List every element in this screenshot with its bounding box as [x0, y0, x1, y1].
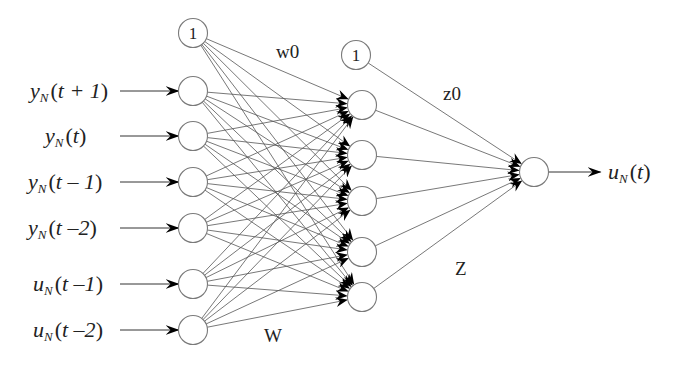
weight-edge: [374, 181, 522, 288]
weight-label-z0: z0: [443, 83, 461, 104]
weight-edge: [207, 108, 346, 134]
output-node: [520, 158, 549, 187]
output-label: uN(t): [608, 159, 650, 186]
bias-label: 1: [352, 46, 361, 65]
neural-network-diagram: yN(t + 1)yN(t)yN(t – 1)yN(t –2)uN(t –1)u…: [0, 0, 681, 365]
edges-input-to-hidden: [201, 39, 354, 328]
weight-label-W: W: [264, 325, 282, 346]
input-label: uN(t –2): [33, 317, 103, 344]
weight-edge: [368, 63, 521, 164]
hidden-node: [348, 187, 377, 216]
hidden-node: [348, 141, 377, 170]
bias-label: 1: [189, 24, 198, 43]
weight-edge: [205, 144, 349, 243]
weight-edge: [203, 166, 351, 319]
weight-edge: [205, 190, 349, 288]
weight-edge: [207, 203, 346, 225]
input-label: yN(t –2): [26, 215, 97, 242]
input-node: [179, 168, 208, 197]
weight-edge: [375, 179, 520, 246]
weight-edge: [376, 156, 518, 170]
hidden-node: [348, 91, 377, 120]
weight-label-w0: w0: [276, 41, 299, 62]
weight-edge: [205, 210, 350, 321]
weight-label-Z: Z: [455, 258, 467, 279]
input-node: [179, 77, 208, 106]
weight-edge: [201, 45, 354, 284]
weight-edge: [202, 44, 353, 239]
input-node: [179, 316, 208, 345]
weight-edge: [376, 175, 518, 199]
weight-edge: [207, 255, 347, 281]
input-node: [179, 214, 208, 243]
hidden-node: [348, 283, 377, 312]
weight-edge: [207, 138, 346, 154]
input-label: yN(t + 1): [28, 78, 108, 105]
input-label: yN(t): [43, 123, 86, 150]
weight-edge: [206, 188, 347, 247]
weight-edge: [202, 117, 353, 318]
input-labels: yN(t + 1)yN(t)yN(t – 1)yN(t –2)uN(t –1)u…: [26, 78, 650, 344]
input-node: [179, 270, 208, 299]
nodes: 11: [179, 19, 549, 345]
weight-edge: [207, 285, 346, 296]
hidden-node: [348, 238, 377, 267]
input-node: [179, 122, 208, 151]
weight-edge: [207, 157, 346, 179]
weight-edge: [376, 110, 520, 166]
input-label: uN(t –1): [33, 271, 103, 298]
input-label: yN(t – 1): [26, 169, 102, 196]
